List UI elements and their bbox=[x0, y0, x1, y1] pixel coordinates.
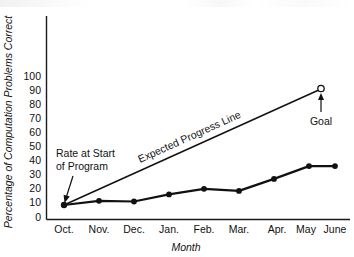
y-tick-label: 40 bbox=[29, 154, 41, 166]
y-tick-label: 30 bbox=[29, 168, 41, 180]
y-axis-title: Percentage of Computation Problems Corre… bbox=[2, 15, 14, 229]
y-tick-label: 50 bbox=[29, 140, 41, 152]
x-tick-label: May bbox=[296, 223, 317, 235]
data-point bbox=[271, 176, 277, 182]
data-point bbox=[61, 202, 67, 208]
x-tick-label: Apr. bbox=[268, 223, 287, 235]
y-tick-label: 80 bbox=[29, 98, 41, 110]
x-tick-label: Oct. bbox=[54, 223, 73, 235]
x-tick-label: Nov. bbox=[89, 223, 110, 235]
y-tick-label: 60 bbox=[29, 126, 41, 138]
y-tick-label: 70 bbox=[29, 112, 41, 124]
data-point bbox=[306, 163, 312, 169]
progress-monitoring-chart: 100 90 80 70 60 50 40 30 20 10 0 Percent… bbox=[0, 0, 354, 257]
goal-arrow-head-icon bbox=[318, 93, 324, 100]
chart-page: 100 90 80 70 60 50 40 30 20 10 0 Percent… bbox=[0, 0, 354, 257]
data-point bbox=[236, 188, 242, 194]
data-point bbox=[166, 192, 172, 198]
goal-label: Goal bbox=[310, 115, 332, 127]
data-point bbox=[96, 198, 102, 204]
y-tick-label: 20 bbox=[29, 182, 41, 194]
start-rate-label-line2: of Program bbox=[56, 160, 108, 172]
x-tick-label: Jan. bbox=[159, 223, 179, 235]
y-tick-label: 0 bbox=[35, 211, 41, 223]
y-tick-label: 90 bbox=[29, 84, 41, 96]
x-tick-label: Feb. bbox=[193, 223, 214, 235]
x-tick-label: Dec. bbox=[123, 223, 145, 235]
start-rate-label-line1: Rate at Start bbox=[56, 147, 115, 159]
data-point bbox=[201, 186, 207, 192]
y-tick-label: 10 bbox=[29, 196, 41, 208]
x-tick-label: Mar. bbox=[229, 223, 249, 235]
data-point bbox=[131, 199, 137, 205]
expected-progress-label: Expected Progress Line bbox=[136, 108, 243, 165]
x-axis-title: Month bbox=[171, 241, 200, 253]
y-tick-label: 100 bbox=[23, 70, 41, 82]
start-rate-arrow-head-icon bbox=[64, 195, 70, 203]
data-point bbox=[332, 163, 338, 169]
start-rate-arrow-line bbox=[66, 176, 73, 198]
goal-marker-icon bbox=[318, 85, 324, 91]
x-tick-label: June bbox=[324, 223, 347, 235]
